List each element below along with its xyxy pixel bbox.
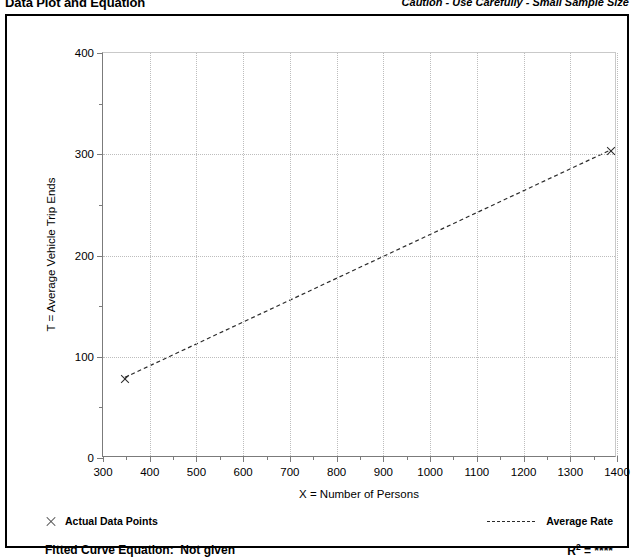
data-point-marker: [605, 146, 616, 157]
x-axis-title: X = Number of Persons: [102, 488, 616, 500]
r-squared-value: R2 = ****: [567, 542, 613, 558]
x-axis-tick: [126, 456, 127, 460]
dashed-line-icon: [487, 521, 535, 522]
legend-actual-data-points-label: Actual Data Points: [65, 515, 158, 527]
x-axis-tick-label: 600: [234, 466, 253, 478]
x-axis-tick-label: 900: [374, 466, 393, 478]
gridline-vertical: [477, 53, 478, 456]
x-axis-tick: [220, 456, 221, 460]
x-axis-tick-label: 400: [140, 466, 159, 478]
x-axis-tick-label: 1200: [511, 466, 537, 478]
x-axis-tick: [617, 456, 618, 462]
gridline-vertical: [383, 53, 384, 456]
gridline-vertical: [243, 53, 244, 456]
x-axis-tick-label: 800: [327, 466, 346, 478]
x-axis-tick-label: 1400: [604, 466, 630, 478]
x-cross-marker-icon: [45, 515, 57, 527]
gridline-vertical: [617, 53, 618, 456]
x-axis-tick: [430, 456, 431, 462]
x-axis-tick: [570, 456, 571, 462]
y-axis-tick-label: 100: [75, 351, 94, 363]
gridline-horizontal: [103, 154, 615, 155]
chart-header: Data Plot and Equation Caution - Use Car…: [0, 0, 635, 13]
x-axis-tick: [196, 456, 197, 462]
x-axis-tick: [243, 456, 244, 462]
y-axis-tick: [97, 458, 103, 459]
x-axis-tick: [313, 456, 314, 460]
y-axis-tick: [97, 154, 103, 155]
y-axis-tick: [97, 357, 103, 358]
x-axis-tick-label: 1300: [557, 466, 583, 478]
r-squared-symbol: R: [567, 544, 576, 558]
fitted-curve-equation-label: Fitted Curve Equation:: [45, 543, 174, 557]
average-rate-line: [103, 53, 615, 456]
gridline-horizontal: [103, 357, 615, 358]
x-axis-tick: [103, 456, 104, 462]
y-axis-tick-label: 300: [75, 148, 94, 160]
gridline-vertical: [430, 53, 431, 456]
y-axis-tick: [99, 407, 103, 408]
gridline-vertical: [337, 53, 338, 456]
x-axis-tick-label: 1100: [464, 466, 489, 478]
x-axis-tick-label: 300: [93, 466, 112, 478]
gridline-vertical: [290, 53, 291, 456]
fitted-curve-equation-value: Not given: [180, 543, 235, 557]
x-axis-tick: [594, 456, 595, 460]
chart-frame: 3004005006007008009001000110012001300140…: [5, 14, 629, 548]
y-axis-tick-label: 400: [75, 47, 94, 59]
y-axis-tick-label: 0: [88, 452, 94, 464]
y-axis-tick: [99, 205, 103, 206]
x-axis-tick-label: 700: [280, 466, 299, 478]
x-axis-tick: [407, 456, 408, 460]
x-axis-tick: [500, 456, 501, 460]
x-axis-tick: [453, 456, 454, 460]
x-axis-tick-label: 500: [187, 466, 206, 478]
x-axis-tick: [547, 456, 548, 460]
x-axis-tick: [337, 456, 338, 462]
average-rate-trendline: [125, 151, 609, 378]
gridline-vertical: [150, 53, 151, 456]
y-axis-tick: [99, 104, 103, 105]
x-axis-tick-label: 1000: [417, 466, 443, 478]
r-squared-number: = ****: [584, 544, 613, 558]
page-title: Data Plot and Equation: [5, 0, 145, 10]
fitted-curve-equation: Fitted Curve Equation: Not given: [45, 543, 235, 557]
x-axis-tick: [383, 456, 384, 462]
y-axis-tick-label: 200: [75, 250, 94, 262]
gridline-vertical: [570, 53, 571, 456]
x-axis-tick: [477, 456, 478, 462]
y-axis-tick: [99, 306, 103, 307]
y-axis-title: T = Average Vehicle Trip Ends: [43, 52, 59, 457]
x-axis-tick: [267, 456, 268, 460]
plot-area: 3004005006007008009001000110012001300140…: [102, 52, 616, 457]
r-squared-exponent: 2: [576, 542, 581, 552]
legend-average-rate-label: Average Rate: [546, 515, 613, 527]
y-axis-tick: [97, 256, 103, 257]
x-axis-tick: [290, 456, 291, 462]
y-axis-tick: [97, 53, 103, 54]
x-axis-tick: [173, 456, 174, 460]
gridline-vertical: [524, 53, 525, 456]
gridline-horizontal: [103, 256, 615, 257]
gridline-vertical: [196, 53, 197, 456]
x-axis-tick: [524, 456, 525, 462]
caution-note: Caution - Use Carefully - Small Sample S…: [402, 0, 629, 8]
x-axis-tick: [360, 456, 361, 460]
data-point-marker: [119, 374, 130, 385]
x-axis-tick: [150, 456, 151, 462]
